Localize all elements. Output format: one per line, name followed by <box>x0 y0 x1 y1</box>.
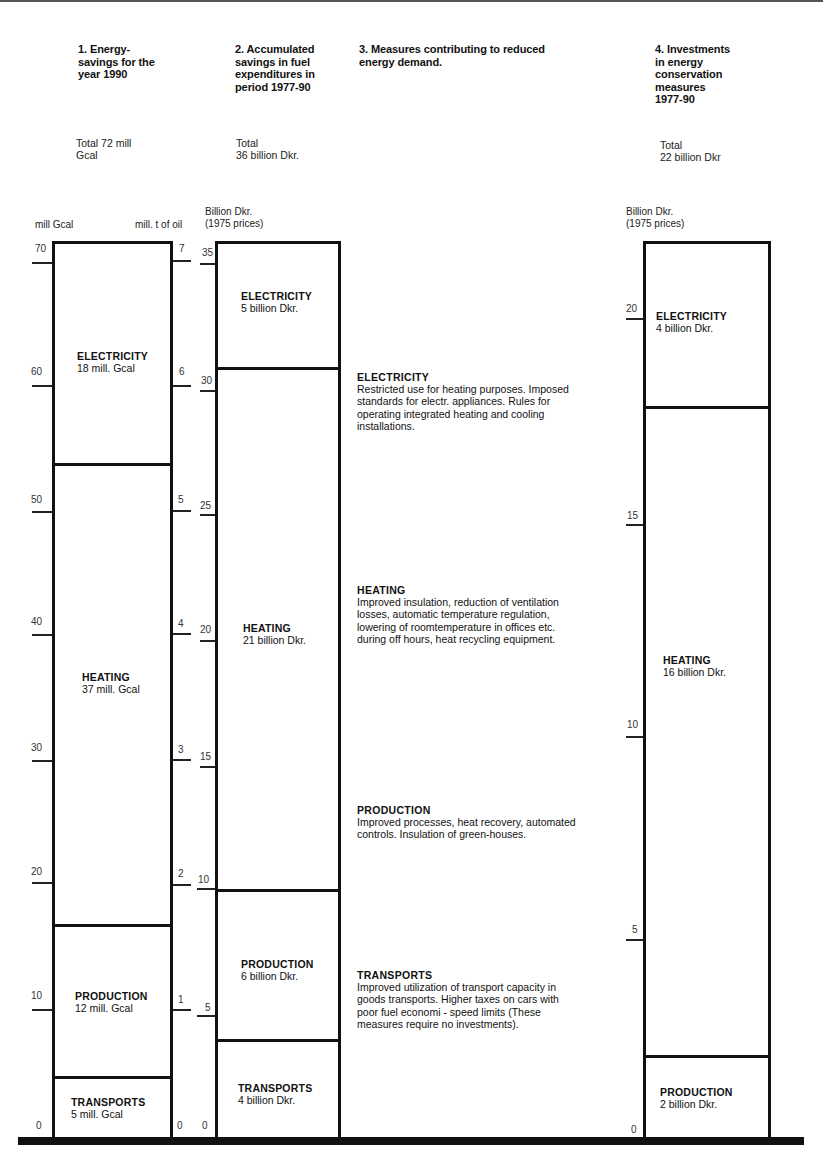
tick-label: 5 <box>205 1002 211 1013</box>
segment-divider <box>218 1039 338 1042</box>
measure-text: installations. <box>357 420 617 432</box>
col2-total-line: Total <box>236 137 299 149</box>
segment-value: 16 billion Dkr. <box>663 666 726 678</box>
col4-total: Total 22 billion Dkr <box>660 139 721 163</box>
measure-text: Improved utilization of transport capaci… <box>357 981 617 993</box>
tick-label: 0 <box>631 1124 637 1135</box>
tick-label: 30 <box>201 375 212 386</box>
measure-text: operating integrated heating and cooling <box>357 408 617 420</box>
tick-mark <box>32 760 52 762</box>
tick-mark <box>197 1015 216 1017</box>
tick-label: 4 <box>178 618 184 629</box>
segment-name: PRODUCTION <box>241 958 314 970</box>
tick-mark <box>626 524 643 526</box>
tick-label: 20 <box>31 866 42 877</box>
segment-value: 4 billion Dkr. <box>656 322 713 334</box>
tick-mark <box>32 511 52 513</box>
tick-label: 0 <box>177 1120 183 1131</box>
tick-label: 20 <box>626 303 637 314</box>
col1-title-line: 1. Energy- <box>78 43 155 56</box>
tick-mark <box>626 736 643 738</box>
tick-label: 40 <box>31 616 42 627</box>
segment-name: PRODUCTION <box>75 990 148 1002</box>
col1-total: Total 72 mill Gcal <box>76 137 131 161</box>
tick-mark <box>173 385 191 387</box>
tick-mark <box>200 640 216 642</box>
tick-mark <box>173 633 191 635</box>
col4-axis-unit: Billion Dkr. (1975 prices) <box>626 206 684 230</box>
segment-name: HEATING <box>663 654 726 666</box>
measure-text: Improved insulation, reduction of ventil… <box>357 596 617 608</box>
measure-heating: HEATING Improved insulation, reduction o… <box>357 584 617 645</box>
tick-label: 15 <box>200 751 211 762</box>
col4-segment-electricity: ELECTRICITY 4 billion Dkr. <box>656 310 727 334</box>
tick-label: 30 <box>31 742 42 753</box>
col3-title: 3. Measures contributing to reduced ener… <box>359 43 545 68</box>
col2-axis-unit: Billion Dkr. (1975 prices) <box>205 206 263 230</box>
col4-segment-heating: HEATING 16 billion Dkr. <box>663 654 726 678</box>
measure-text: losses, automatic temperature regulation… <box>357 608 617 620</box>
col1-title: 1. Energy- savings for the year 1990 <box>78 43 155 81</box>
col1-stacked-bar: ELECTRICITY 18 mill. Gcal HEATING 37 mil… <box>52 241 173 1141</box>
tick-label: 2 <box>178 868 184 879</box>
segment-value: 37 mill. Gcal <box>82 683 140 695</box>
measure-text: poor fuel economi - speed limits (These <box>357 1006 617 1018</box>
col4-total-line: 22 billion Dkr <box>660 151 721 163</box>
segment-name: HEATING <box>243 622 306 634</box>
col4-stacked-bar: ELECTRICITY 4 billion Dkr. HEATING 16 bi… <box>643 241 771 1141</box>
segment-name: ELECTRICITY <box>241 290 312 302</box>
tick-mark <box>32 262 52 264</box>
tick-mark <box>626 939 643 941</box>
measure-text: Improved processes, heat recovery, autom… <box>357 816 617 828</box>
segment-name: ELECTRICITY <box>77 350 148 362</box>
col2-title-line: savings in fuel <box>235 56 315 69</box>
col4-title-line: 4. Investments <box>655 43 730 56</box>
segment-divider <box>55 1076 170 1079</box>
col1-left-axis-unit: mill Gcal <box>35 219 73 231</box>
col1-segment-production: PRODUCTION 12 mill. Gcal <box>75 990 148 1014</box>
tick-mark <box>32 634 52 636</box>
col4-title-line: in energy <box>655 56 730 69</box>
tick-mark <box>173 759 191 761</box>
segment-divider <box>646 406 768 409</box>
tick-mark <box>197 888 216 890</box>
tick-mark <box>200 514 216 516</box>
segment-name: HEATING <box>82 671 140 683</box>
segment-value: 4 billion Dkr. <box>238 1094 295 1106</box>
col2-title-line: expenditures in <box>235 68 315 81</box>
segment-divider <box>218 367 338 370</box>
col1-segment-electricity: ELECTRICITY 18 mill. Gcal <box>77 350 148 374</box>
col2-segment-heating: HEATING 21 billion Dkr. <box>243 622 306 646</box>
col1-title-line: year 1990 <box>78 68 155 81</box>
measure-text: controls. Insulation of green-houses. <box>357 828 617 840</box>
tick-label: 20 <box>200 624 211 635</box>
tick-mark <box>173 260 191 262</box>
tick-mark <box>173 884 191 886</box>
measure-text: measures require no investments). <box>357 1018 617 1030</box>
measure-name: PRODUCTION <box>357 804 617 816</box>
tick-mark <box>200 263 216 265</box>
col2-title-line: 2. Accumulated <box>235 43 315 56</box>
tick-label: 10 <box>31 990 42 1001</box>
segment-divider <box>218 889 338 892</box>
tick-label: 15 <box>627 510 638 521</box>
measure-text: lowering of roomtemperature in offices e… <box>357 621 617 633</box>
col2-stacked-bar: ELECTRICITY 5 billion Dkr. HEATING 21 bi… <box>215 241 341 1141</box>
col1-segment-heating: HEATING 37 mill. Gcal <box>82 671 140 695</box>
segment-name: ELECTRICITY <box>656 310 727 322</box>
segment-divider <box>646 1055 768 1058</box>
col3-title-line: energy demand. <box>359 56 545 69</box>
measure-electricity: ELECTRICITY Restricted use for heating p… <box>357 371 617 432</box>
col2-segment-production: PRODUCTION 6 billion Dkr. <box>241 958 314 982</box>
segment-value: 5 billion Dkr. <box>241 302 298 314</box>
tick-mark <box>32 385 52 387</box>
segment-value: 2 billion Dkr. <box>660 1098 717 1110</box>
col2-axis-unit-line: Billion Dkr. <box>205 206 263 218</box>
tick-label: 10 <box>198 874 209 885</box>
tick-label: 0 <box>202 1120 208 1131</box>
measure-text: during off hours, heat recycling equipme… <box>357 633 617 645</box>
col1-total-line: Total 72 mill <box>76 137 131 149</box>
col4-title: 4. Investments in energy conservation me… <box>655 43 730 106</box>
col4-title-line: conservation <box>655 68 730 81</box>
tick-mark <box>32 1009 52 1011</box>
